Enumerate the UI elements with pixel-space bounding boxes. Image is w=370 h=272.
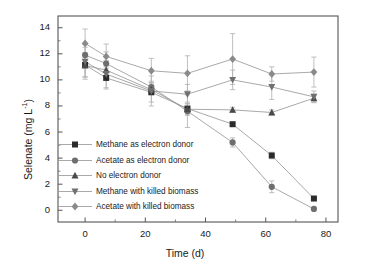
x-tick-label: 80 [311,228,341,239]
legend-marker-circle [57,153,93,168]
y-tick-label: 12 [28,47,50,58]
data-point-circle [230,139,236,145]
y-tick-label: 8 [28,99,50,110]
y-tick-label: 2 [28,178,50,189]
y-tick-label: 14 [28,21,50,32]
data-point-square [311,196,317,202]
data-point-diamond [268,70,275,78]
legend-label: Acetate as electron donor [96,156,189,165]
series-line-3 [85,62,314,97]
legend-label: Methane as electron donor [96,140,193,149]
legend-label: Acetate with killed biomass [96,202,194,211]
data-point-diamond [184,69,191,77]
legend-marker-square [57,137,93,152]
data-point-diamond [82,39,89,47]
y-axis-label-text: Selenate (mg L [22,109,34,180]
y-axis-label: Selenate (mg L-1) [21,99,34,180]
legend-label: No electron donor [96,171,161,180]
data-point-diamond [72,203,79,211]
data-point-circle [269,184,275,190]
y-tick-label: 10 [28,73,50,84]
legend-item: Methane as electron donor [57,137,198,153]
legend-item: Acetate as electron donor [57,153,198,169]
data-point-diamond [311,68,318,76]
legend-label: Methane with killed biomass [96,187,198,196]
data-point-circle [311,206,317,212]
series-errorbars-2 [82,54,316,115]
legend-marker-triangle-down [57,184,93,199]
data-point-diamond [148,67,155,75]
data-point-circle [82,52,88,58]
y-tick-label: 0 [28,204,50,215]
legend-marker-triangle-up [57,168,93,183]
y-tick-label: 6 [28,126,50,137]
x-axis-label: Time (d) [0,247,370,259]
data-point-circle [103,60,109,66]
legend-item: No electron donor [57,168,198,184]
legend-item: Methane with killed biomass [57,184,198,200]
y-tick-label: 4 [28,152,50,163]
x-tick-label: 20 [130,228,160,239]
series-markers-4 [82,39,318,77]
selenate-removal-chart: Selenate (mg L-1) Time (d) 02468101214 0… [0,0,370,272]
series-line-4 [85,43,314,74]
data-point-diamond [229,55,236,63]
y-axis-label-exponent: -1 [21,103,28,109]
data-point-square [72,142,78,148]
series-markers-3 [82,59,318,101]
data-point-circle [72,157,78,163]
chart-legend: Methane as electron donorAcetate as elec… [57,137,198,215]
data-point-square [269,153,275,159]
data-point-square [230,121,236,127]
data-point-diamond [103,53,110,61]
x-tick-label: 60 [251,228,281,239]
legend-item: Acetate with killed biomass [57,199,198,215]
x-tick-label: 0 [70,228,100,239]
legend-marker-diamond [57,199,93,214]
x-tick-label: 40 [191,228,221,239]
